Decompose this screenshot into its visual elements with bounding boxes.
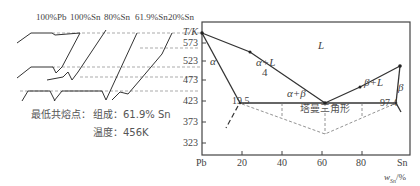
region-beta: β (398, 82, 403, 93)
cooling-curves (17, 30, 172, 101)
x-axis-label: wSn/% (384, 173, 406, 184)
y-tick-573: 573 (183, 38, 198, 48)
cooling-label-20sn: 20%Sn (168, 13, 194, 22)
y-tick-423: 423 (183, 96, 198, 106)
y-tick-373: 373 (183, 117, 198, 127)
x-tick-20: 20 (237, 158, 247, 168)
x-tick-80: 80 (356, 158, 366, 168)
y-tick-523: 523 (183, 56, 198, 66)
guide-lines (20, 33, 200, 91)
y-tick-473: 473 (183, 75, 198, 85)
eutectic-note-title: 最低共熔点： (31, 110, 91, 120)
tammann-triangle-label: 塔曼三角形 (300, 104, 350, 114)
cooling-curve-100sn (17, 33, 80, 78)
region-liquid: L (318, 40, 324, 51)
x-ticks (242, 151, 362, 155)
y-tick-323: 323 (183, 138, 198, 148)
x-axis-label-unit: /% (396, 172, 406, 182)
eutectic-note-composition: 组成：61.9% Sn (93, 110, 171, 120)
y-ticks (202, 43, 206, 143)
cooling-label-61-9sn: 61.9%Sn (135, 13, 168, 22)
region-alpha: α (210, 56, 216, 67)
region-beta-plus-liquid: β+L (364, 77, 383, 88)
x-tick-40: 40 (277, 158, 287, 168)
alpha-solubility-label: 19.5 (232, 96, 250, 106)
cooling-label-80sn: 80%Sn (104, 13, 130, 22)
eutectic-note-temperature: 温度：456K (93, 128, 149, 138)
x-tick-60: 60 (317, 158, 327, 168)
phase-diagram-figure: 100%Pb 100%Sn 80%Sn 61.9%Sn 20%Sn T/K 57… (0, 0, 420, 186)
region-alpha-plus-beta: α+β (287, 88, 306, 99)
y-axis-unit-label: T/K (183, 27, 198, 37)
beta-solubility-label: 97.4 (380, 98, 398, 108)
cooling-label-100sn: 100%Sn (70, 13, 101, 22)
x-tick-pb: Pb (196, 158, 207, 168)
plot-frame (202, 22, 410, 155)
x-tick-sn: Sn (397, 158, 408, 168)
cooling-curve-100pb (17, 33, 80, 43)
alpha-solvus-dashed (226, 106, 238, 128)
cooling-label-100pb: 100%Pb (36, 13, 67, 22)
region-alpha-plus-liquid-number: 4 (262, 67, 268, 78)
